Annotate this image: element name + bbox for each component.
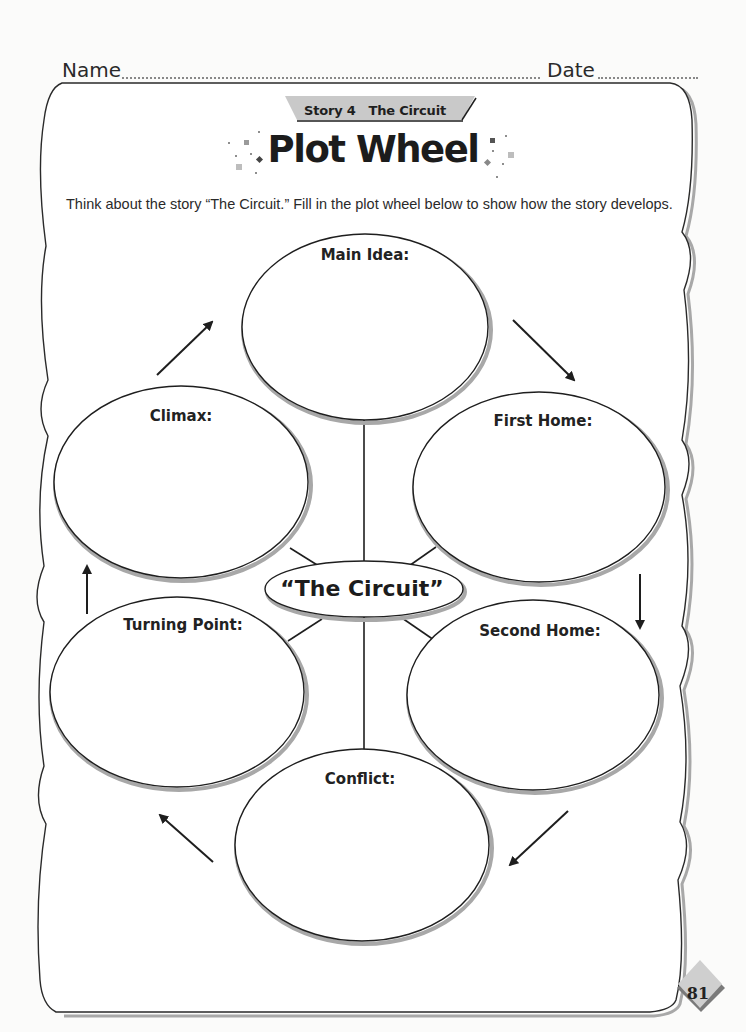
label-second-home: Second Home: (479, 622, 600, 640)
answer-first-home[interactable] (440, 435, 640, 565)
answer-conflict[interactable] (262, 795, 462, 925)
answer-turning-point[interactable] (76, 640, 281, 770)
label-climax: Climax: (150, 407, 213, 425)
label-turning-point: Turning Point: (123, 616, 242, 634)
instructions-text: Think about the story “The Circuit.” Fil… (66, 192, 706, 217)
answer-climax[interactable] (80, 430, 285, 560)
label-conflict: Conflict: (325, 770, 395, 788)
page-title: Plot Wheel (0, 128, 746, 171)
label-main-idea: Main Idea: (321, 246, 410, 264)
page-number: 81 (687, 984, 709, 1003)
center-story-title: “The Circuit” (280, 576, 443, 601)
answer-second-home[interactable] (430, 645, 635, 775)
answer-main-idea[interactable] (270, 270, 460, 400)
story-tag: Story 4 The Circuit (280, 98, 470, 122)
label-first-home: First Home: (494, 412, 593, 430)
